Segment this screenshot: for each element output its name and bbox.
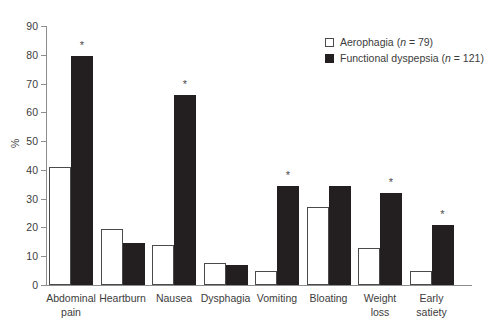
y-tick-label-30: 30	[0, 194, 38, 204]
y-tick-label-80: 80	[0, 50, 38, 60]
legend: Aerophagia (n = 79) Functional dyspepsia…	[325, 34, 484, 66]
legend-label-functional-dyspepsia: Functional dyspepsia (n = 121)	[340, 52, 484, 64]
significance-marker-vomiting: *	[278, 170, 298, 181]
significance-marker-early-satiety: *	[433, 209, 453, 220]
y-tick-label-60: 60	[0, 107, 38, 117]
bar-functional-dyspepsia-weight-loss	[380, 193, 402, 285]
legend-item-aerophagia: Aerophagia (n = 79)	[325, 34, 484, 50]
y-tick-50	[41, 141, 46, 142]
bar-functional-dyspepsia-heartburn	[123, 243, 145, 285]
y-tick-label-20: 20	[0, 222, 38, 232]
bar-functional-dyspepsia-nausea	[174, 95, 196, 285]
bar-aerophagia-weight-loss	[358, 248, 380, 285]
open-square-swatch	[325, 38, 334, 47]
y-tick-90	[41, 26, 46, 27]
y-tick-label-50: 50	[0, 136, 38, 146]
legend-item-functional-dyspepsia: Functional dyspepsia (n = 121)	[325, 50, 484, 66]
y-tick-label-90: 90	[0, 21, 38, 31]
bar-functional-dyspepsia-vomiting	[277, 186, 299, 285]
y-tick-label-0: 0	[0, 280, 38, 290]
y-tick-0	[41, 285, 46, 286]
y-tick-40	[41, 170, 46, 171]
y-tick-label-70: 70	[0, 79, 38, 89]
significance-marker-abdominal-pain: *	[72, 40, 92, 51]
bar-functional-dyspepsia-bloating	[329, 186, 351, 285]
y-tick-70	[41, 84, 46, 85]
bar-aerophagia-early-satiety	[410, 271, 432, 285]
bar-aerophagia-vomiting	[255, 271, 277, 285]
y-tick-20	[41, 227, 46, 228]
bar-functional-dyspepsia-early-satiety	[432, 225, 454, 285]
filled-square-swatch	[325, 54, 334, 63]
legend-label-aerophagia: Aerophagia (n = 79)	[340, 36, 433, 48]
y-tick-30	[41, 199, 46, 200]
significance-marker-weight-loss: *	[381, 177, 401, 188]
y-tick-label-10: 10	[0, 251, 38, 261]
bar-aerophagia-abdominal-pain	[49, 167, 71, 285]
bar-functional-dyspepsia-dysphagia	[226, 265, 248, 285]
bar-aerophagia-heartburn	[101, 229, 123, 285]
bar-functional-dyspepsia-abdominal-pain	[71, 56, 93, 285]
y-tick-10	[41, 256, 46, 257]
x-axis-line	[46, 285, 472, 286]
bar-aerophagia-bloating	[307, 207, 329, 285]
bar-aerophagia-dysphagia	[204, 263, 226, 285]
significance-marker-nausea: *	[175, 79, 195, 90]
x-label-early-satiety: Earlysatiety	[402, 291, 462, 319]
bar-aerophagia-nausea	[152, 245, 174, 285]
y-tick-label-40: 40	[0, 165, 38, 175]
y-tick-80	[41, 55, 46, 56]
y-tick-60	[41, 112, 46, 113]
